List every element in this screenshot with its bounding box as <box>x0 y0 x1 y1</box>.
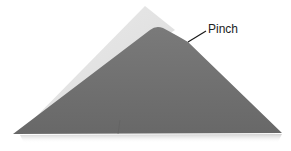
pinch-label: Pinch <box>208 22 238 36</box>
paper-front-layer <box>13 27 282 134</box>
origami-illustration <box>0 0 291 151</box>
paper-shadow <box>20 134 282 143</box>
pinch-leader-line <box>188 31 206 42</box>
